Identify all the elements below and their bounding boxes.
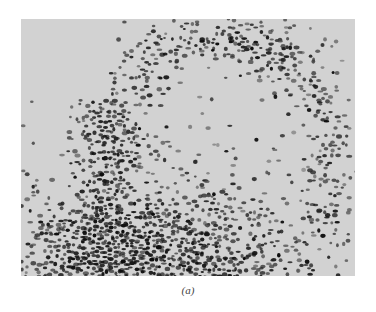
figure-image — [21, 19, 355, 276]
density-dot-field — [21, 19, 355, 276]
figure-caption: (a) — [0, 284, 376, 296]
